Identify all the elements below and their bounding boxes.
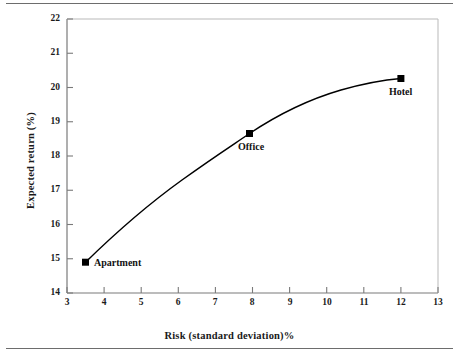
y-tick-label-17: 17 <box>38 184 60 194</box>
chart-page: 3 4 5 6 7 8 9 10 11 12 13 22 21 20 19 18… <box>0 0 459 352</box>
x-tick-label-6: 6 <box>166 297 190 307</box>
x-tick-label-4: 4 <box>92 297 116 307</box>
marker-hotel <box>397 75 404 82</box>
point-label-apartment: Apartment <box>94 257 141 268</box>
data-markers <box>82 75 404 266</box>
x-tick-label-8: 8 <box>240 297 264 307</box>
y-tick-label-16: 16 <box>38 219 60 229</box>
y-tick-label-15: 15 <box>38 253 60 263</box>
y-axis-title: Expected return (%) <box>25 76 36 246</box>
y-tick-label-22: 22 <box>38 13 60 23</box>
x-axis-ticks <box>67 287 438 293</box>
y-tick-label-20: 20 <box>38 82 60 92</box>
x-axis-title: Risk (standard deviation)% <box>0 330 459 341</box>
x-tick-label-10: 10 <box>315 297 339 307</box>
plot-frame <box>67 19 438 293</box>
x-tick-label-12: 12 <box>389 297 413 307</box>
y-tick-label-21: 21 <box>38 47 60 57</box>
x-tick-label-7: 7 <box>203 297 227 307</box>
x-tick-label-3: 3 <box>55 297 79 307</box>
point-label-office: Office <box>238 141 264 152</box>
y-tick-label-14: 14 <box>38 287 60 297</box>
y-axis-ticks <box>67 19 73 293</box>
x-tick-label-5: 5 <box>129 297 153 307</box>
x-tick-label-9: 9 <box>278 297 302 307</box>
data-curve <box>86 0 401 262</box>
point-label-hotel: Hotel <box>389 86 412 97</box>
y-tick-label-18: 18 <box>38 150 60 160</box>
y-tick-label-19: 19 <box>38 116 60 126</box>
marker-office <box>246 130 253 137</box>
x-tick-label-13: 13 <box>426 297 450 307</box>
x-tick-label-11: 11 <box>352 297 376 307</box>
marker-apartment <box>82 259 89 266</box>
